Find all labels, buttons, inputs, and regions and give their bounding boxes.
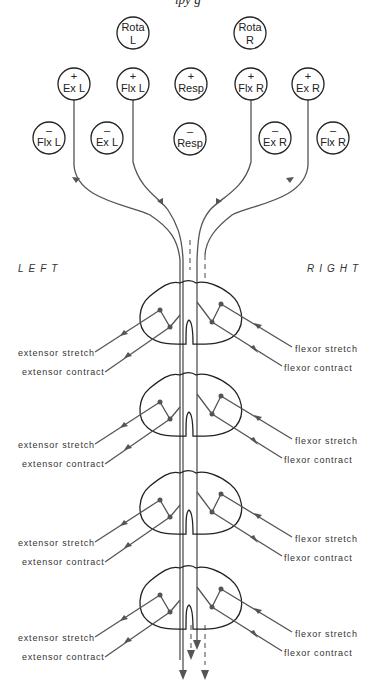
node-resp-plus: +Resp (175, 68, 207, 100)
label-extensor-contract: extensor contract (22, 367, 105, 377)
top-caption-fragment: ipy g (175, 0, 201, 7)
tract-ex-l (74, 100, 180, 660)
left-stretch-fiber (95, 310, 160, 352)
node-label: Ex R (263, 136, 287, 148)
arrowhead-icon (124, 542, 132, 548)
node-sign: – (46, 124, 53, 136)
node-sign: + (130, 70, 136, 82)
right-interneuron (197, 492, 221, 512)
left-interneuron (160, 500, 180, 517)
node-sign: + (305, 70, 311, 82)
node-ex-r-minus: –Ex R (259, 122, 291, 154)
node-label: Rota (238, 21, 262, 33)
left-side-label: LEFT (18, 263, 62, 274)
neuron-dot (219, 587, 224, 592)
arrowhead-icon (124, 352, 132, 358)
label-flexor-stretch: flexor stretch (295, 629, 358, 639)
right-contract-fiber (212, 607, 282, 651)
node-resp-minus: –Resp (174, 123, 206, 155)
descending-tracts (72, 100, 308, 680)
node-label: L (130, 34, 136, 46)
arrowhead-down-icon (193, 640, 201, 650)
left-interneuron (160, 310, 180, 327)
arrowhead-icon (286, 177, 294, 183)
arrowhead-icon (216, 198, 222, 205)
label-flexor-stretch: flexor stretch (295, 534, 358, 544)
spinal-segments: extensor stretchextensor contractflexor … (18, 281, 358, 662)
node-label: Resp (177, 137, 203, 149)
node-label: Ex L (63, 82, 85, 94)
spinal-segment-4: extensor stretchextensor contractflexor … (18, 566, 358, 662)
node-sign: – (104, 124, 111, 136)
node-ex-r-plus: +Ex R (292, 68, 324, 100)
node-ex-l-minus: –Ex L (91, 122, 123, 154)
right-interneuron (197, 587, 221, 607)
neuron-dot (168, 417, 173, 422)
node-sign: + (71, 70, 77, 82)
node-label: Flx R (238, 82, 264, 94)
node-label: Ex R (296, 82, 320, 94)
label-flexor-contract: flexor contract (284, 363, 353, 373)
neuron-dot (219, 302, 224, 307)
arrowhead-icon (124, 637, 132, 643)
node-label: Ex L (96, 136, 118, 148)
neuron-dot (210, 605, 215, 610)
node-flx-l-minus: –Flx L (33, 122, 65, 154)
control-nodes: RotaLRotaR+Ex L+Flx L+Resp+Flx R+Ex R–Fl… (33, 17, 349, 155)
label-extensor-contract: extensor contract (22, 459, 105, 469)
node-sign: – (330, 124, 337, 136)
spinal-segment-2: extensor stretchextensor contractflexor … (18, 373, 358, 469)
neuron-dot (219, 492, 224, 497)
spinal-segment-1: extensor stretchextensor contractflexor … (18, 281, 358, 377)
node-flx-l-plus: +Flx L (117, 68, 149, 100)
label-extensor-contract: extensor contract (22, 557, 105, 567)
node-sign: + (248, 70, 254, 82)
node-sign: + (188, 70, 194, 82)
tract-flx-l (133, 100, 183, 672)
right-interneuron (197, 394, 221, 414)
neuron-dot (168, 515, 173, 520)
node-flx-r-plus: +Flx R (235, 68, 267, 100)
arrowhead-down-icon (179, 670, 187, 680)
neuron-dot (210, 320, 215, 325)
neuron-dot (158, 498, 163, 503)
left-contract-fiber (105, 612, 170, 657)
label-flexor-contract: flexor contract (284, 455, 353, 465)
left-stretch-fiber (95, 500, 160, 542)
left-interneuron (160, 595, 180, 612)
spinal-segment-3: extensor stretchextensor contractflexor … (18, 471, 358, 567)
spinal-circuit-diagram: ipy g extensor stretchextensor contractf… (0, 0, 376, 686)
label-extensor-stretch: extensor stretch (18, 538, 95, 548)
label-extensor-stretch: extensor stretch (18, 440, 95, 450)
label-flexor-stretch: flexor stretch (295, 344, 358, 354)
left-contract-fiber (105, 517, 170, 562)
label-extensor-stretch: extensor stretch (18, 348, 95, 358)
right-contract-fiber (212, 322, 282, 366)
neuron-dot (158, 593, 163, 598)
node-label: Flx L (121, 82, 145, 94)
neuron-dot (168, 610, 173, 615)
tract-flx-r (197, 100, 251, 645)
neuron-dot (158, 400, 163, 405)
node-label: Resp (178, 82, 204, 94)
node-rota-l: RotaL (117, 17, 149, 49)
label-flexor-contract: flexor contract (284, 648, 353, 658)
left-stretch-fiber (95, 402, 160, 444)
node-rota-r: RotaR (234, 17, 266, 49)
node-sign: – (272, 124, 279, 136)
left-interneuron (160, 402, 180, 419)
arrowhead-icon (124, 444, 132, 450)
arrowhead-down-icon (187, 650, 195, 660)
node-label: Flx R (320, 136, 346, 148)
neuron-dot (168, 325, 173, 330)
node-sign: – (187, 125, 194, 137)
node-flx-r-minus: –Flx R (317, 122, 349, 154)
right-interneuron (197, 302, 221, 322)
neuron-dot (158, 308, 163, 313)
right-side-label: RIGHT (307, 263, 363, 274)
arrowhead-down-icon (201, 670, 209, 680)
left-contract-fiber (105, 327, 170, 372)
node-ex-l-plus: +Ex L (58, 68, 90, 100)
left-stretch-fiber (95, 595, 160, 637)
label-extensor-contract: extensor contract (22, 652, 105, 662)
